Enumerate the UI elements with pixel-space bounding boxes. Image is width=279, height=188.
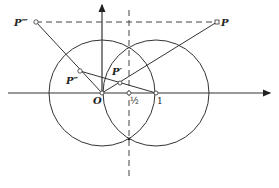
point-p-prime-marker — [118, 81, 122, 85]
label-p-triple-prime: P‴ — [13, 17, 29, 28]
point-p-triple-prime-marker — [34, 20, 38, 24]
label-one: 1 — [157, 96, 163, 106]
point-p-marker — [215, 20, 219, 24]
one-marker — [154, 91, 158, 95]
label-p-prime: P′ — [111, 66, 123, 77]
circles-intersection-marker — [128, 138, 131, 141]
label-origin: O — [93, 95, 102, 106]
geometric-diagram: P P‴ P″ P′ O ½ 1 — [0, 0, 279, 188]
point-p-double-prime-marker — [78, 69, 82, 73]
label-p: P — [220, 17, 229, 28]
label-half: ½ — [130, 96, 139, 106]
half-marker — [127, 91, 131, 95]
label-p-double-prime: P″ — [65, 75, 79, 86]
